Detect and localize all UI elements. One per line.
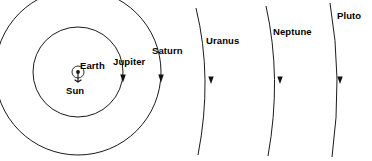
planet-marker-pluto <box>337 77 342 84</box>
solar-system-diagram: Sun Earth Jupiter Saturn Uranus Neptune … <box>0 0 372 161</box>
planet-marker-jupiter <box>120 74 126 82</box>
label-uranus: Uranus <box>206 36 239 46</box>
planet-marker-saturn <box>158 74 164 82</box>
label-sun: Sun <box>66 86 84 96</box>
label-neptune: Neptune <box>273 27 312 37</box>
label-pluto: Pluto <box>337 11 361 21</box>
planet-marker-neptune <box>277 77 282 84</box>
planet-marker-uranus <box>208 77 213 84</box>
label-saturn: Saturn <box>152 46 183 56</box>
label-earth: Earth <box>80 61 105 71</box>
orbit-canvas <box>0 0 372 161</box>
sun-pointer-icon <box>75 74 82 82</box>
orbit-arc-uranus <box>196 8 205 155</box>
orbit-arc-pluto <box>330 3 337 157</box>
label-jupiter: Jupiter <box>113 57 145 67</box>
